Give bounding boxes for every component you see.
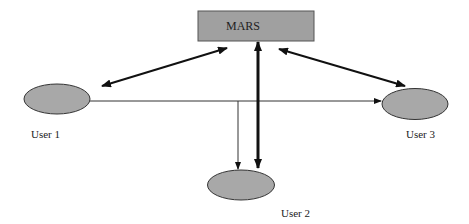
mars-label: MARS <box>226 19 260 33</box>
user1-node <box>24 84 90 114</box>
user2-node <box>208 170 275 200</box>
edge-user1-mars <box>102 48 227 86</box>
edge-user3-mars <box>279 49 405 86</box>
user1-label: User 1 <box>31 128 60 140</box>
diagram-canvas: MARS User 1 User 3 User 2 <box>0 0 469 224</box>
user3-label: User 3 <box>406 128 436 140</box>
user3-node <box>382 89 448 120</box>
user2-label: User 2 <box>281 207 310 219</box>
mars-server-node: MARS <box>198 11 314 41</box>
